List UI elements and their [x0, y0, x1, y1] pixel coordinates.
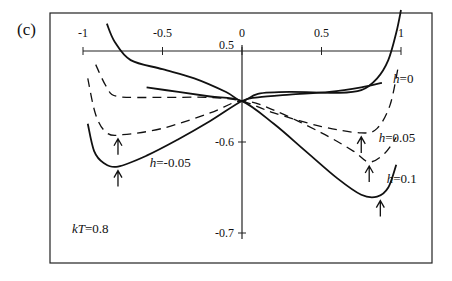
curve-label: h=0.1 — [387, 171, 417, 186]
x-tick-label: -1 — [78, 26, 88, 40]
x-tick-label: 0.5 — [314, 26, 329, 40]
y-tick-label: -0.6 — [215, 135, 234, 149]
curve-h-0-05 — [88, 83, 382, 167]
x-tick-label: -0.5 — [153, 26, 172, 40]
up-arrow-icon — [357, 137, 365, 153]
up-arrow-icon — [114, 139, 122, 155]
curve-label: h=-0.05 — [150, 155, 191, 170]
x-tick-label: 0 — [239, 26, 245, 40]
y-tick-label: -0.7 — [215, 226, 234, 240]
x-tick-label: 1 — [398, 26, 404, 40]
up-arrow-icon — [365, 166, 373, 182]
up-arrow-icon — [376, 201, 384, 217]
y-tick-label: 0.5 — [219, 38, 234, 52]
curve-label: h=0.05 — [379, 130, 416, 145]
chart: -1-0.500.510.5-0.6-0.7 h=0h=0.05h=-0.05h… — [0, 0, 452, 281]
curve-label: h=0 — [393, 71, 413, 86]
minima-arrows — [114, 137, 384, 217]
temperature-annotation: kT=0.8 — [72, 221, 109, 236]
up-arrow-icon — [114, 171, 122, 187]
